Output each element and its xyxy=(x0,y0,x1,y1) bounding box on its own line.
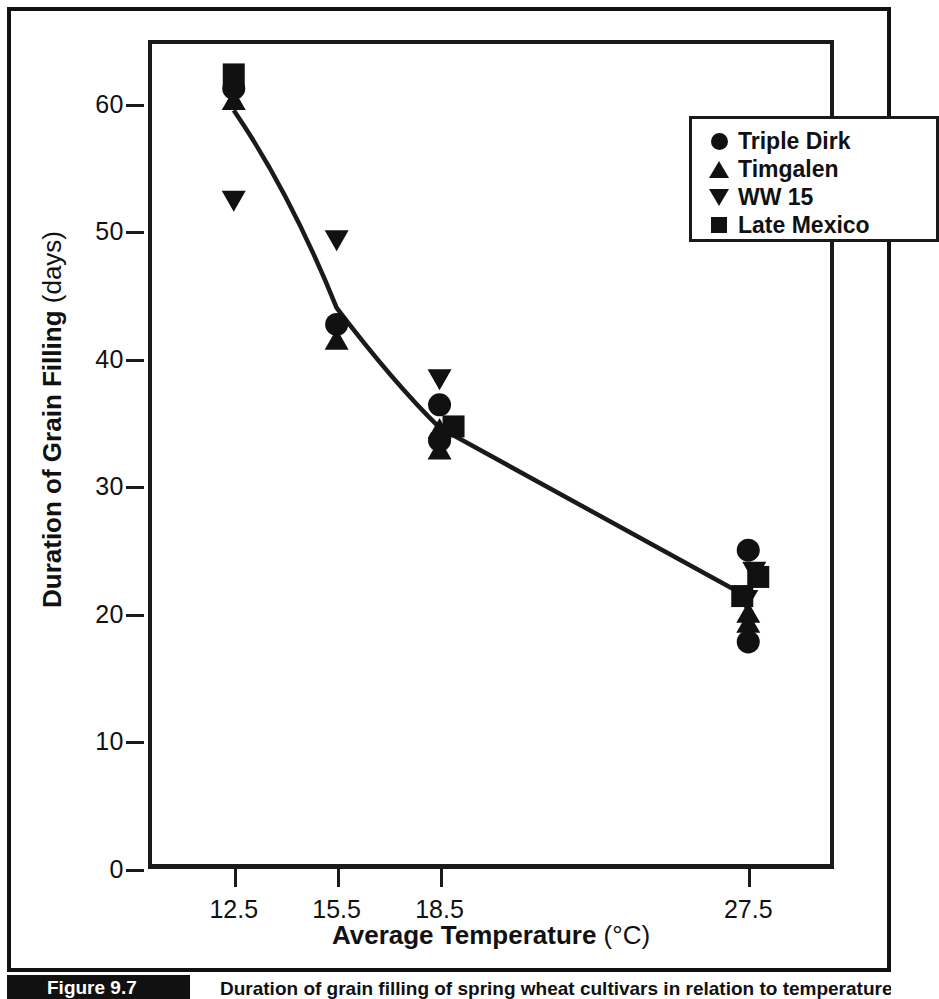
x-axis-title-text: Average Temperature xyxy=(332,920,596,950)
legend-item: Late Mexico xyxy=(706,211,936,239)
y-tick-mark xyxy=(126,869,144,872)
y-tick-label: 60 xyxy=(95,89,124,118)
x-axis-unit: (°C) xyxy=(604,920,651,950)
data-point xyxy=(737,539,760,562)
x-tick-mark xyxy=(337,869,340,887)
marker-glyph xyxy=(711,133,728,150)
y-tick-label: 20 xyxy=(95,599,124,628)
data-point xyxy=(443,415,465,437)
marker-glyph xyxy=(709,161,729,178)
data-point xyxy=(223,63,245,85)
marker-glyph xyxy=(711,217,727,233)
y-tick-mark xyxy=(126,486,144,489)
figure-caption: Figure 9.7 Duration of grain filling of … xyxy=(7,975,891,999)
chart-legend: Triple DirkTimgalenWW 15Late Mexico xyxy=(689,116,939,242)
legend-item-label: Timgalen xyxy=(738,156,839,183)
y-axis-title: Duration of Grain Filling (days) xyxy=(37,160,68,680)
y-axis-title-text: Duration of Grain Filling xyxy=(37,310,67,608)
legend-item-label: WW 15 xyxy=(738,184,813,211)
y-tick-label: 0 xyxy=(110,855,124,884)
figure-number: Figure 9.7 xyxy=(47,977,137,999)
legend-item-label: Late Mexico xyxy=(738,212,870,239)
data-point xyxy=(428,393,451,416)
legend-item: Timgalen xyxy=(706,155,936,183)
data-point xyxy=(325,230,349,251)
y-tick-mark xyxy=(126,104,144,107)
legend-item-label: Triple Dirk xyxy=(738,128,850,155)
y-tick-mark xyxy=(126,359,144,362)
square-marker-icon xyxy=(706,213,732,237)
x-tick-mark xyxy=(748,869,751,887)
data-point xyxy=(737,630,760,653)
y-axis-unit: (days) xyxy=(37,231,67,303)
plot-area: Triple DirkTimgalenWW 15Late Mexico xyxy=(148,40,834,869)
figure-caption-text: Duration of grain filling of spring whea… xyxy=(220,978,891,999)
x-tick-mark xyxy=(440,869,443,887)
figure-number-badge: Figure 9.7 xyxy=(7,975,190,999)
y-tick-label: 30 xyxy=(95,472,124,501)
y-tick-mark xyxy=(126,231,144,234)
marker-glyph xyxy=(709,189,729,206)
y-tick-label: 50 xyxy=(95,217,124,246)
legend-item: Triple Dirk xyxy=(706,127,936,155)
data-point xyxy=(428,369,452,390)
y-tick-mark xyxy=(126,741,144,744)
x-tick-mark xyxy=(234,869,237,887)
y-axis-ticklabels: 0102030405060 xyxy=(62,40,124,869)
circle-marker-icon xyxy=(706,129,732,153)
y-tick-label: 40 xyxy=(95,344,124,373)
triangle-up-marker-icon xyxy=(706,157,732,181)
y-tick-mark xyxy=(126,614,144,617)
x-axis-title: Average Temperature (°C) xyxy=(148,920,834,951)
data-point xyxy=(747,566,769,588)
legend-item: WW 15 xyxy=(706,183,936,211)
data-point xyxy=(731,585,753,607)
y-tick-label: 10 xyxy=(95,727,124,756)
triangle-down-marker-icon xyxy=(706,185,732,209)
data-point xyxy=(222,191,246,212)
trend-line xyxy=(234,110,749,597)
